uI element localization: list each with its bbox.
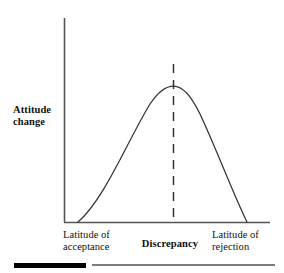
inverted-u-curve <box>78 86 247 222</box>
x-axis-label-latitude-of-rejection: Latitude of rejection <box>212 229 259 252</box>
footer-rule-gray <box>92 264 275 266</box>
attitude-change-discrepancy-figure: Attitude change Latitude of acceptance D… <box>0 0 284 273</box>
x-axis-label-discrepancy: Discrepancy <box>120 238 220 249</box>
footer-rule-black <box>14 263 86 268</box>
x-axis-label-latitude-of-acceptance: Latitude of acceptance <box>63 229 110 252</box>
y-axis-label: Attitude change <box>13 104 51 128</box>
